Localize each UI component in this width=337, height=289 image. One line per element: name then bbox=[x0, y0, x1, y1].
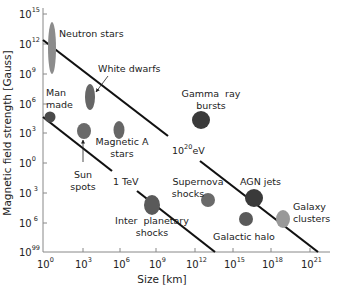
neutron-stars-marker bbox=[48, 22, 56, 74]
y-tick-label: 106 bbox=[19, 215, 38, 229]
supernova-shocks-label: Supernovashocks bbox=[172, 176, 224, 199]
x-axis-title: Size [km] bbox=[137, 273, 186, 285]
agn-jets-marker bbox=[245, 189, 263, 207]
gamma-ray-bursts-label: Gamma raybursts bbox=[182, 88, 241, 111]
y-tick-label: 106 bbox=[19, 96, 36, 110]
inter-planetary-shocks-label: Inter planetaryshocks bbox=[115, 215, 189, 238]
y-tick-label: 1099 bbox=[19, 244, 40, 258]
x-tick-label: 1018 bbox=[262, 256, 283, 270]
magnetic-a-stars-label: Magnetic Astars bbox=[95, 136, 149, 159]
x-tick-label: 103 bbox=[75, 256, 92, 270]
man-made-label: Manmade bbox=[46, 87, 73, 110]
y-tick-label: 103 bbox=[19, 125, 36, 139]
objects bbox=[45, 22, 291, 228]
x-tick-label: 1015 bbox=[224, 256, 245, 270]
y-tick-label: 109 bbox=[19, 66, 36, 80]
man-made-marker bbox=[45, 112, 56, 123]
sun-spots-marker bbox=[77, 123, 91, 139]
galactic-halo-marker bbox=[239, 212, 253, 226]
white-dwarfs-label: White dwarfs bbox=[98, 63, 161, 74]
gamma-ray-bursts-marker bbox=[192, 111, 210, 129]
agn-jets-label: AGN jets bbox=[240, 176, 281, 187]
x-tick-label: 106 bbox=[113, 256, 130, 270]
x-tick-label: 100 bbox=[37, 256, 54, 270]
galactic-halo-label: Galactic halo bbox=[213, 231, 275, 242]
neutron-stars-label: Neutron stars bbox=[59, 28, 124, 39]
line-label-1-tev: 1 TeV bbox=[113, 176, 139, 187]
x-tick-label: 1012 bbox=[186, 256, 207, 270]
y-tick-labels: 1015 1012 109 106 103 100 103 106 1099 bbox=[19, 6, 40, 258]
y-tick-label: 1012 bbox=[19, 36, 40, 50]
y-tick-label: 1015 bbox=[19, 6, 40, 20]
x-tick-labels: 100 103 106 109 1012 1015 1018 1021 bbox=[37, 256, 322, 270]
sun-spots-label: Sunspots bbox=[70, 169, 96, 192]
line-label-10-20-ev: 1020eV bbox=[172, 143, 205, 156]
x-tick-label: 109 bbox=[149, 256, 166, 270]
y-tick-label: 100 bbox=[19, 155, 36, 169]
x-tick-label: 1021 bbox=[301, 256, 322, 270]
y-axis-title: Magnetic field strength [Gauss] bbox=[1, 50, 13, 215]
hillas-plot: 1015 1012 109 106 103 100 103 106 1099 1… bbox=[0, 0, 337, 289]
inter-planetary-shocks-marker bbox=[144, 195, 160, 215]
white-dwarfs-marker bbox=[85, 84, 95, 110]
galaxy-clusters-marker bbox=[276, 210, 290, 228]
y-tick-label: 103 bbox=[19, 185, 38, 199]
galaxy-clusters-label: Galaxyclusters bbox=[293, 201, 330, 224]
